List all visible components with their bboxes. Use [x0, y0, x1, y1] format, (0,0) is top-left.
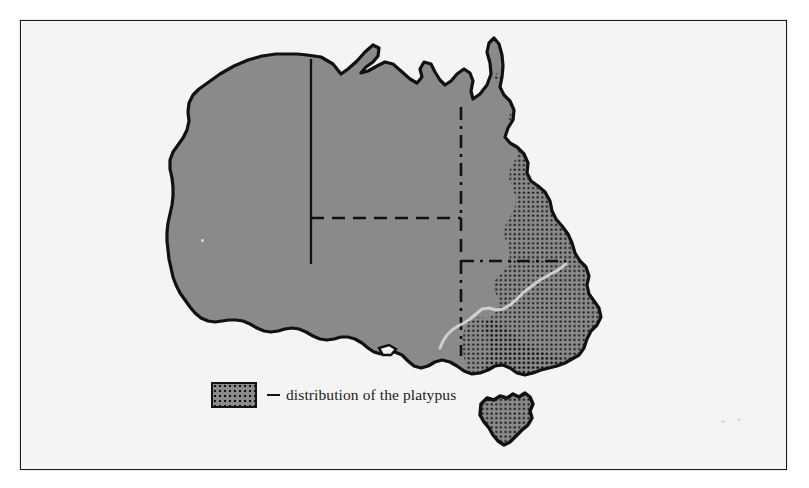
distribution-swatch	[211, 382, 257, 408]
kangaroo-island	[379, 345, 396, 355]
map-page: distribution of the platypus	[0, 0, 809, 488]
map-frame: distribution of the platypus	[20, 20, 787, 470]
legend-label: distribution of the platypus	[286, 386, 456, 404]
mainland-australia	[167, 38, 602, 384]
tasmania	[471, 389, 546, 451]
paper-speck	[737, 418, 741, 421]
map-stage: distribution of the platypus	[21, 21, 786, 469]
legend-dash-icon	[267, 394, 280, 396]
paper-speck	[201, 239, 204, 242]
paper-speck	[721, 420, 725, 423]
legend: distribution of the platypus	[211, 382, 456, 408]
